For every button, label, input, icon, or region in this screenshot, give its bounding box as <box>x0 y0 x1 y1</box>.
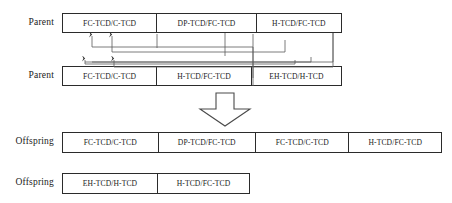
chromosome-parent-2: FC-TCD/C-TCD H-TCD/FC-TCD EH-TCD/H-TCD <box>62 66 342 86</box>
chromosome-offspring-2: EH-TCD/H-TCD H-TCD/FC-TCD <box>62 173 250 194</box>
gene-cell: DP-TCD/FC-TCD <box>157 14 256 32</box>
gene-cell: FC-TCD/C-TCD <box>256 133 350 152</box>
row-label-parent-1: Parent <box>6 17 54 27</box>
down-block-arrow-icon <box>190 92 260 128</box>
gene-cell: EH-TCD/H-TCD <box>63 174 158 193</box>
chromosome-parent-1: FC-TCD/C-TCD DP-TCD/FC-TCD H-TCD/FC-TCD <box>62 13 342 33</box>
chromosome-offspring-1: FC-TCD/C-TCD DP-TCD/FC-TCD FC-TCD/C-TCD … <box>62 132 442 153</box>
row-label-offspring-2: Offspring <box>2 177 54 187</box>
gene-cell: EH-TCD/H-TCD <box>252 67 341 85</box>
gene-cell: H-TCD/FC-TCD <box>349 133 441 152</box>
gene-cell: DP-TCD/FC-TCD <box>159 133 256 152</box>
gene-cell: H-TCD/FC-TCD <box>158 174 249 193</box>
gene-cell: FC-TCD/C-TCD <box>63 67 157 85</box>
crossover-diagram: Parent FC-TCD/C-TCD DP-TCD/FC-TCD H-TCD/… <box>0 0 452 203</box>
row-label-parent-2: Parent <box>6 70 54 80</box>
gene-cell: FC-TCD/C-TCD <box>63 14 157 32</box>
gene-cell: H-TCD/FC-TCD <box>157 67 251 85</box>
gene-cell: H-TCD/FC-TCD <box>257 14 341 32</box>
gene-cell: FC-TCD/C-TCD <box>63 133 159 152</box>
row-label-offspring-1: Offspring <box>2 136 54 146</box>
